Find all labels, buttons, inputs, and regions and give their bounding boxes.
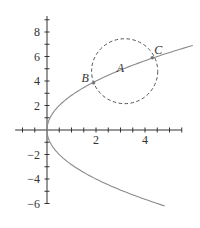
y-tick-label: −6 [27, 197, 40, 211]
point-b-marker [92, 81, 96, 85]
point-b-label: B [82, 71, 90, 85]
y-tick-label: 8 [34, 25, 40, 39]
y-tick-label: −4 [27, 172, 40, 186]
x-tick-labels: 24 [93, 133, 148, 147]
y-tick-label: 4 [34, 74, 40, 88]
point-c-label: C [154, 43, 163, 57]
y-axis [45, 16, 50, 203]
x-axis [15, 128, 182, 133]
y-tick-label: 2 [34, 99, 40, 113]
parabola-circle-diagram: 24 8642−2−4−6 ABC [0, 0, 200, 228]
dashed-circle [92, 39, 158, 104]
point-a-label: A [116, 61, 125, 75]
x-tick-label: 4 [142, 133, 148, 147]
y-tick-label: 6 [34, 50, 40, 64]
plot-canvas: 24 8642−2−4−6 ABC [0, 0, 200, 228]
x-tick-label: 2 [93, 133, 99, 147]
labeled-points: ABC [82, 43, 164, 85]
y-tick-label: −2 [27, 148, 40, 162]
y-tick-labels: 8642−2−4−6 [27, 25, 40, 211]
